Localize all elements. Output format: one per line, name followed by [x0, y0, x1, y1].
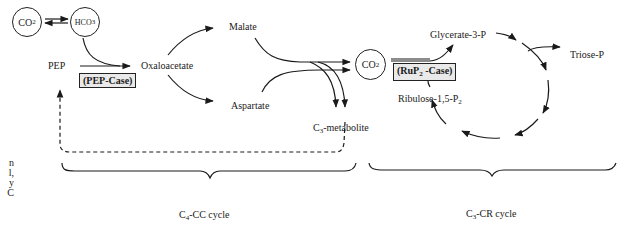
rup2-pre: (RuP: [397, 65, 419, 76]
co2-text: CO: [18, 17, 32, 28]
c3-metabolite-rest: -metabolite: [323, 122, 369, 133]
pep-label: PEP: [48, 61, 65, 71]
co2-node-c4: CO2: [12, 7, 42, 37]
c3-cycle-label: C3-CR cycle: [466, 209, 516, 221]
c3-metabolite-label: C3-metabolite: [313, 123, 369, 135]
ribulose-sub: 2: [458, 98, 462, 106]
rup2-post: -Case): [423, 65, 453, 76]
glycerate-label: Glycerate-3-P: [430, 30, 486, 40]
co2-sub: 2: [32, 18, 36, 26]
co2-text: CO: [362, 59, 376, 70]
malate-label: Malate: [229, 22, 257, 32]
pep-case-enzyme-box: (PEP-Case): [79, 73, 136, 88]
c3-label-rest: -CR cycle: [476, 208, 516, 219]
cut-text-fragment: C: [0, 188, 14, 198]
hco3-text: HCO: [75, 18, 92, 27]
ribulose-base: Ribulose-1,5-P: [398, 93, 458, 104]
hco3-sub: 3: [92, 18, 96, 26]
ribulose-label: Ribulose-1,5-P2: [398, 94, 462, 106]
cut-text-fragment: l,: [0, 168, 14, 178]
aspartate-label: Aspartate: [231, 101, 269, 111]
co2-node-c3: CO2: [355, 49, 386, 80]
cut-text-fragment: y: [0, 178, 14, 188]
c4-cycle-label: C4-CC cycle: [179, 210, 229, 222]
oxaloacetate-label: Oxaloacetate: [141, 61, 193, 71]
cut-text-fragment: n: [0, 158, 14, 168]
co2-sub: 2: [376, 61, 380, 69]
c3-metabolite-base: C: [313, 122, 320, 133]
c3-label-base: C: [466, 208, 473, 219]
hco3-node: HCO3: [70, 7, 100, 37]
c4-label-rest: -CC cycle: [189, 209, 229, 220]
rup2-case-enzyme-box: (RuP2 -Case): [393, 63, 456, 81]
c4-label-base: C: [179, 209, 186, 220]
triose-label: Triose-P: [570, 50, 604, 60]
